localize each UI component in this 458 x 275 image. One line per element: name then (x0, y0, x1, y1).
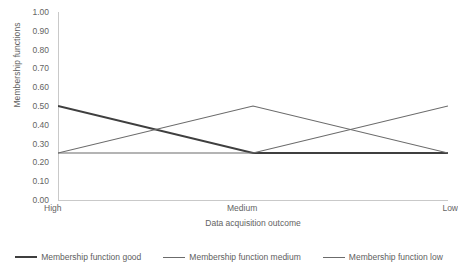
x-axis-title: Data acquisition outcome (58, 218, 448, 228)
x-tick-high: High (44, 203, 61, 213)
legend-label: Membership function medium (189, 252, 301, 262)
legend-line-swatch (163, 257, 185, 258)
series-lines (58, 12, 448, 200)
legend-item[interactable]: Membership function good (15, 252, 141, 262)
legend-line-swatch (15, 256, 37, 258)
y-tick-label: 0.60 (32, 82, 49, 92)
y-tick-label: 0.20 (32, 157, 49, 167)
x-tick-medium: Medium (227, 203, 257, 213)
series-line (58, 106, 448, 153)
y-tick-label: 0.80 (32, 45, 49, 55)
legend-line-swatch (323, 257, 345, 258)
x-tick-low: Low (442, 203, 458, 213)
series-line (58, 106, 448, 153)
series-line (58, 106, 448, 153)
x-axis-line (58, 200, 448, 201)
legend-item[interactable]: Membership function low (323, 252, 443, 262)
y-tick-label: 0.90 (32, 26, 49, 36)
y-axis-tick-labels: 1.000.900.800.700.600.500.400.300.200.10… (0, 0, 54, 275)
x-axis-tick-labels: High Medium Low (58, 203, 448, 217)
line-chart: Membership functions 1.000.900.800.700.6… (0, 0, 458, 275)
y-tick-label: 0.70 (32, 63, 49, 73)
y-tick-label: 0.50 (32, 101, 49, 111)
legend-item[interactable]: Membership function medium (163, 252, 301, 262)
chart-legend: Membership function goodMembership funct… (0, 249, 458, 265)
y-tick-label: 1.00 (32, 7, 49, 17)
legend-label: Membership function good (41, 252, 141, 262)
plot-area (58, 12, 448, 200)
y-tick-label: 0.40 (32, 120, 49, 130)
y-tick-label: 0.10 (32, 176, 49, 186)
legend-label: Membership function low (349, 252, 443, 262)
y-tick-label: 0.30 (32, 139, 49, 149)
